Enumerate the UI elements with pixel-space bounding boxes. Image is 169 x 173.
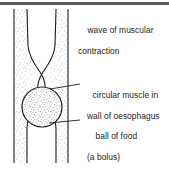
- label-ball-of-food: ball of food (a bolus): [86, 121, 137, 173]
- label-ball-of-food-line2: (a bolus): [86, 152, 137, 162]
- label-wave-of-muscular-contraction: wave of muscular contraction: [78, 15, 153, 77]
- label-wave-line1: wave of muscular: [88, 25, 154, 35]
- label-circular-muscle-line1: circular muscle in: [93, 90, 159, 100]
- label-ball-of-food-line1: ball of food: [96, 131, 138, 141]
- oesophagus-left-wall: [10, 5, 45, 167]
- bolus-ball-of-food: [22, 87, 62, 127]
- peristalsis-diagram: wave of muscular contraction circular mu…: [0, 0, 169, 173]
- label-wave-line2: contraction: [78, 46, 153, 56]
